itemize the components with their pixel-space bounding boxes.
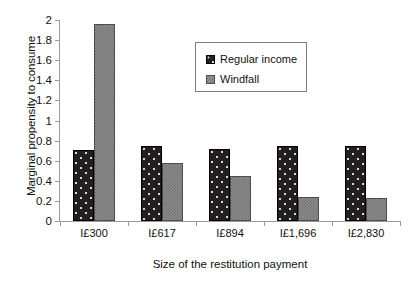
- y-axis-tick: [55, 161, 60, 162]
- y-axis-tick-label: 2: [46, 14, 52, 26]
- y-axis-tick-label: 1.4: [36, 74, 52, 86]
- x-axis-tick-label: I£1,696: [280, 227, 317, 239]
- y-axis-tick: [55, 20, 60, 21]
- x-axis-line: [59, 221, 401, 222]
- x-axis-tick-label: I£2,830: [348, 227, 385, 239]
- y-axis-tick: [55, 181, 60, 182]
- y-axis-tick-label: 0: [46, 215, 52, 227]
- x-axis-tick: [128, 221, 129, 226]
- x-axis-title: Size of the restitution payment: [60, 258, 400, 270]
- bar-regular-income: [209, 149, 230, 221]
- x-axis-tick-label: I£617: [148, 227, 176, 239]
- legend-label: Windfall: [220, 73, 259, 85]
- y-axis-tick-label: 1: [46, 115, 52, 127]
- x-axis-tick: [60, 221, 61, 226]
- bar-chart-figure: Marginal propensity to consume 00.20.40.…: [0, 0, 420, 284]
- bar-regular-income: [141, 146, 162, 221]
- bar-windfall: [298, 197, 319, 221]
- legend-swatch-icon: [206, 55, 215, 64]
- x-axis-tick: [400, 221, 401, 226]
- y-axis-tick-label: 0.6: [36, 155, 52, 167]
- bar-regular-income: [73, 150, 94, 221]
- x-axis-tick-label: I£300: [80, 227, 108, 239]
- y-axis-tick-label: 0.4: [36, 175, 52, 187]
- y-axis-tick: [55, 121, 60, 122]
- y-axis-tick-label: 1.8: [36, 34, 52, 46]
- legend-item: Windfall: [206, 70, 306, 88]
- x-axis-tick: [332, 221, 333, 226]
- x-axis-tick-label: I£894: [216, 227, 244, 239]
- x-axis-tick: [196, 221, 197, 226]
- y-axis-tick: [55, 40, 60, 41]
- chart-legend: Regular incomeWindfall: [195, 42, 307, 92]
- bar-windfall: [230, 176, 251, 221]
- legend-label: Regular income: [220, 53, 297, 65]
- bar-windfall: [366, 198, 387, 221]
- y-axis-tick: [55, 80, 60, 81]
- x-axis-tick: [264, 221, 265, 226]
- y-axis-tick-label: 1.2: [36, 94, 52, 106]
- bar-windfall: [162, 163, 183, 221]
- legend-item: Regular income: [206, 50, 306, 68]
- y-axis-tick: [55, 100, 60, 101]
- bar-regular-income: [277, 146, 298, 221]
- y-axis-tick: [55, 201, 60, 202]
- y-axis-tick: [55, 141, 60, 142]
- bar-regular-income: [345, 146, 366, 221]
- y-axis-tick-label: 0.2: [36, 195, 52, 207]
- y-axis-tick: [55, 60, 60, 61]
- y-axis-tick-label: 1.6: [36, 54, 52, 66]
- bar-windfall: [94, 24, 115, 221]
- legend-swatch-icon: [206, 75, 215, 84]
- y-axis-tick-label: 0.8: [36, 135, 52, 147]
